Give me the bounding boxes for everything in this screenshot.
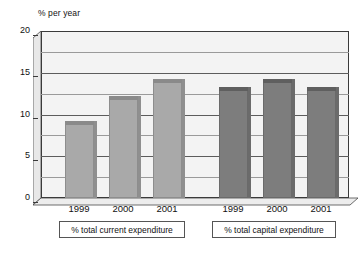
bar-face [109, 96, 138, 198]
bar-top-cap [307, 87, 336, 91]
bar-face [307, 87, 336, 198]
x-axis-tick-label: 2001 [299, 203, 343, 214]
x-axis-tick-label: 1999 [57, 203, 101, 214]
bar [263, 79, 292, 198]
y-axis-tick-label: 0 [2, 192, 30, 202]
x-axis-tick-label: 1999 [211, 203, 255, 214]
bar-side-shading [248, 87, 251, 198]
group-label-current-expenditure: % total current expenditure [59, 221, 185, 238]
bar [307, 87, 336, 198]
y-axis-tick-label: 10 [2, 109, 30, 119]
bar [109, 96, 138, 198]
y-axis-tick-mark [33, 118, 38, 119]
bar-top-cap [65, 121, 94, 125]
bar-top-cap [219, 87, 248, 91]
y-axis-tick-label: 5 [2, 150, 30, 160]
y-axis-tick-mark [33, 76, 38, 77]
bar [153, 79, 182, 198]
bar [65, 121, 94, 198]
bar-face [153, 79, 182, 198]
bar-face [65, 121, 94, 198]
bar-side-shading [138, 96, 141, 198]
bar-face [219, 87, 248, 198]
bar-chart: % per year 20151050 19992000200119992000… [0, 0, 363, 258]
y-axis-tick-mark [33, 160, 38, 161]
y-axis-tick-label: 20 [2, 25, 30, 35]
gridline-major [41, 73, 349, 74]
y-axis-unit-label: % per year [38, 8, 80, 18]
bar-side-shading [182, 79, 185, 198]
y-axis-tick-label: 15 [2, 67, 30, 77]
x-axis-tick-label: 2000 [101, 203, 145, 214]
bar-face [263, 79, 292, 198]
bar-top-cap [153, 79, 182, 83]
x-axis-tick-label: 2001 [145, 203, 189, 214]
bar-top-cap [109, 96, 138, 100]
bar [219, 87, 248, 198]
gridline-minor [41, 94, 349, 95]
group-label-capital-expenditure: % total capital expenditure [212, 221, 336, 238]
y-axis-tick-mark [33, 35, 38, 36]
x-axis-tick-label: 2000 [255, 203, 299, 214]
bar-side-shading [292, 79, 295, 198]
bar-top-cap [263, 79, 292, 83]
bar-side-shading [336, 87, 339, 198]
gridline-minor [41, 52, 349, 53]
gridline-major [41, 115, 349, 116]
y-axis-tick-mark [33, 202, 38, 203]
bar-side-shading [94, 121, 97, 198]
